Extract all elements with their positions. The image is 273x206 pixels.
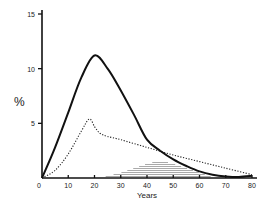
- dotted-series-line: [42, 119, 252, 178]
- x-tick-label: 30: [117, 182, 125, 189]
- line-chart: 51015 01020304050607080 % Years: [0, 0, 273, 206]
- x-tick-label: 20: [91, 182, 99, 189]
- chart-container: 51015 01020304050607080 % Years: [0, 0, 273, 206]
- x-tick-label: 70: [222, 182, 230, 189]
- x-tick-label: 50: [169, 182, 177, 189]
- x-tick-label: 80: [248, 182, 256, 189]
- x-axis-label: Years: [137, 191, 157, 200]
- x-tick-label: 40: [143, 182, 151, 189]
- solid-series-line: [42, 55, 252, 178]
- y-ticks: 51015: [27, 11, 42, 127]
- x-tick-label: 0: [37, 182, 41, 189]
- y-tick-label: 15: [27, 11, 35, 18]
- y-axis-label: %: [14, 95, 25, 109]
- x-tick-label: 60: [196, 182, 204, 189]
- x-tick-label: 10: [64, 182, 72, 189]
- y-tick-label: 10: [27, 66, 35, 73]
- y-tick-label: 5: [31, 120, 35, 127]
